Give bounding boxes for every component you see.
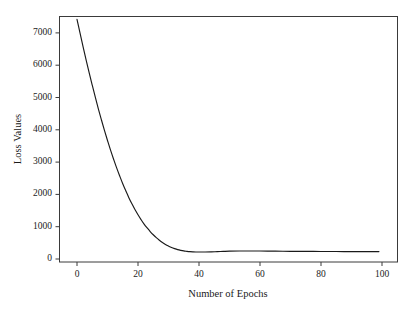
x-tick-label-0: 0 <box>75 270 80 280</box>
y-tick-label-0: 0 <box>10 254 52 264</box>
x-tick-label-100: 100 <box>375 270 389 280</box>
x-tick-label-80: 80 <box>316 270 326 280</box>
y-tick-label-6000: 6000 <box>10 60 52 70</box>
y-tick-label-2000: 2000 <box>10 190 52 200</box>
y-tick-label-7000: 7000 <box>10 28 52 38</box>
y-tick-label-1000: 1000 <box>10 222 52 232</box>
x-axis-ticks <box>77 262 382 266</box>
x-tick-label-60: 60 <box>255 270 265 280</box>
y-axis-ticks <box>56 33 60 259</box>
x-axis-title: Number of Epochs <box>188 288 267 299</box>
plot-frame <box>60 17 398 263</box>
loss-curve-figure: 0 1000 2000 3000 4000 5000 6000 7000 0 2… <box>0 0 415 321</box>
x-tick-label-40: 40 <box>194 270 204 280</box>
x-tick-label-20: 20 <box>133 270 143 280</box>
y-tick-label-5000: 5000 <box>10 93 52 103</box>
y-axis-title: Loss Values <box>12 114 23 164</box>
plot-canvas <box>0 0 415 321</box>
